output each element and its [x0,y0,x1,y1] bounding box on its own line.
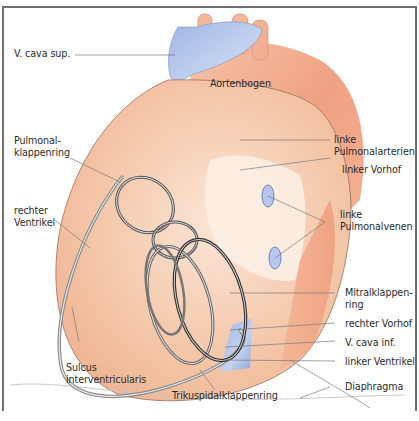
label-v-cava-inf: V. cava inf. [345,337,395,349]
label-aortenbogen: Aortenbogen [210,78,271,90]
label-rechter-ventrikel: rechter Ventrikel [14,205,55,229]
label-linke-pulmonalarterien: linke Pulmonalarterien [334,134,415,158]
label-v-cava-sup: V. cava sup. [14,48,70,60]
label-diaphragma: Diaphragma [345,381,403,393]
label-mitralklappenring: Mitralklappen- ring [345,287,413,311]
label-rechter-vorhof: rechter Vorhof [345,318,412,330]
label-linke-pulmonalvenen: linke Pulmonalvenen [340,209,413,233]
label-linker-ventrikel: linker Ventrikel [345,356,415,368]
label-linker-vorhof: linker Vorhof [342,164,401,176]
label-trikuspidalklappenring: Trikuspidalklappenring [172,390,278,402]
label-sulcus-interventricularis: Sulcus interventricularis [66,362,146,386]
label-pulmonalklappenring: Pulmonal- klappenring [14,135,70,159]
